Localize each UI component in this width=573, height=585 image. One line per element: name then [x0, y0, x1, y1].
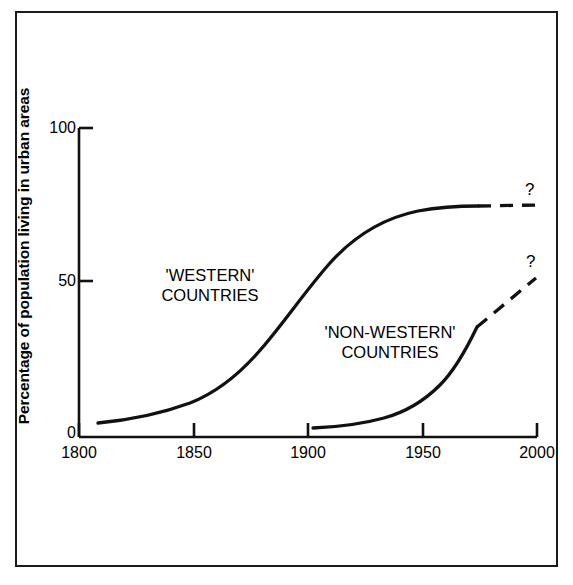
western-countries-projection	[478, 205, 537, 206]
x-tick-label-1900: 1900	[273, 444, 343, 462]
nonwestern-countries-label-line1: 'NON-WESTERN'	[300, 322, 480, 342]
y-tick-label-50: 50	[36, 272, 76, 290]
western-countries-curve	[98, 206, 478, 423]
western-countries-label: 'WESTERN' COUNTRIES	[140, 265, 280, 305]
western-projection-question-mark: ?	[525, 180, 534, 200]
y-tick-label-100: 100	[36, 119, 76, 137]
nonwestern-countries-label-line2: COUNTRIES	[300, 342, 480, 362]
figure-container: Percentage of population living in urban…	[0, 0, 573, 585]
nonwestern-countries-projection	[477, 278, 536, 327]
western-countries-label-line1: 'WESTERN'	[140, 265, 280, 285]
nonwestern-countries-label: 'NON-WESTERN' COUNTRIES	[300, 322, 480, 362]
x-tick-label-1800: 1800	[44, 444, 114, 462]
western-countries-label-line2: COUNTRIES	[140, 285, 280, 305]
x-tick-label-2000: 2000	[502, 444, 572, 462]
y-tick-label-0: 0	[36, 424, 76, 442]
x-tick-label-1850: 1850	[159, 444, 229, 462]
x-tick-label-1950: 1950	[388, 444, 458, 462]
chart-plot-area	[0, 0, 573, 585]
nonwestern-projection-question-mark: ?	[526, 252, 535, 272]
y-axis	[79, 128, 93, 437]
x-axis	[79, 423, 537, 437]
